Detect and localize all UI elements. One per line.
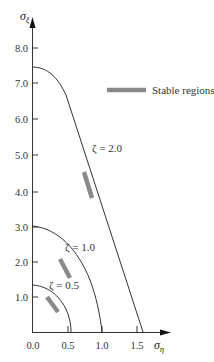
- curve-label-zeta-1: ζ = 1.0: [65, 241, 96, 254]
- y-axis-label: σξ: [20, 9, 30, 25]
- stability-chart: 1.0 2.0 3.0 4.0 5.0 6.0 7.0 8.0 0.0 0.5 …: [0, 0, 214, 362]
- x-ticks: [68, 326, 137, 332]
- y-tick-label: 8.0: [15, 43, 28, 54]
- x-tick-label: 0.0: [26, 340, 39, 351]
- stable-region-zeta-05: [47, 297, 58, 312]
- curve-label-zeta-05: ζ = 0.5: [49, 279, 80, 292]
- curve-label-zeta-2: ζ = 2.0: [92, 142, 123, 155]
- x-axis-arrow-icon: [160, 330, 171, 336]
- curve-zeta-2: [32, 67, 143, 332]
- y-axis-arrow-icon: [30, 17, 36, 28]
- x-axis-label: ση: [154, 338, 164, 354]
- curves: [32, 67, 143, 332]
- stable-region-zeta-2: [84, 172, 92, 198]
- curve-zeta-05: [32, 285, 71, 332]
- stable-region-zeta-1: [60, 259, 70, 278]
- legend: Stable regions: [107, 84, 214, 96]
- y-tick-label: 1.0: [15, 292, 28, 303]
- y-tick-label: 7.0: [15, 78, 28, 89]
- y-tick-label: 4.0: [15, 187, 28, 198]
- y-tick-label: 2.0: [15, 257, 28, 268]
- y-tick-label: 5.0: [15, 150, 28, 161]
- y-tick-label: 6.0: [15, 114, 28, 125]
- x-tick-label: 0.5: [61, 340, 74, 351]
- x-tick-label: 1.0: [95, 340, 108, 351]
- legend-label: Stable regions: [152, 84, 214, 96]
- x-tick-label: 1.5: [130, 340, 143, 351]
- y-tick-label: 3.0: [15, 222, 28, 233]
